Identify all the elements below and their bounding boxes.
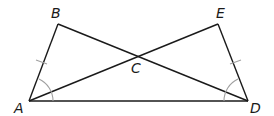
angle-arc-a <box>39 79 53 101</box>
tick-mark-ab <box>36 60 47 64</box>
label-c: C <box>131 60 141 76</box>
label-a: A <box>13 100 24 116</box>
triangle-diagram: A B C D E <box>0 0 274 116</box>
angle-arc-d <box>224 79 238 101</box>
label-d: D <box>250 100 261 116</box>
label-e: E <box>216 5 225 21</box>
segment-ae <box>29 24 218 101</box>
segment-bd <box>58 24 248 101</box>
label-b: B <box>51 5 61 21</box>
